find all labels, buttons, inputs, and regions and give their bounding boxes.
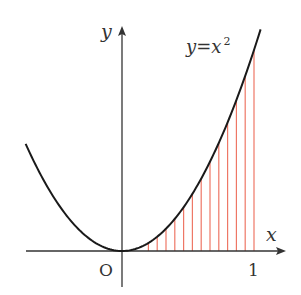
y-axis-label: y (100, 20, 112, 42)
curve-equation-label: y=x2 (185, 35, 230, 57)
shaded-area-hatch (148, 50, 254, 251)
x-axis-label: x (266, 223, 277, 245)
parabola-curve (26, 29, 261, 251)
origin-label: O (99, 260, 113, 280)
area-under-parabola-diagram: y x O 1 y=x2 (0, 0, 301, 295)
tick-label-one: 1 (248, 260, 259, 280)
